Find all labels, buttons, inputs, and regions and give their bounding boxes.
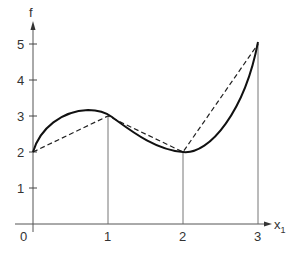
x-axis-label-sub: 1 bbox=[281, 225, 286, 235]
y-tick-label-1: 1 bbox=[17, 181, 24, 196]
y-axis-arrow-icon bbox=[31, 21, 36, 30]
x-tick-label-1: 1 bbox=[104, 229, 111, 244]
y-tick-label-5: 5 bbox=[17, 37, 24, 52]
x-axis-label: x1 bbox=[274, 217, 286, 235]
x-tick-label-3: 3 bbox=[254, 229, 261, 244]
x-tick-label-2: 2 bbox=[179, 229, 186, 244]
y-tick-label-3: 3 bbox=[17, 109, 24, 124]
smooth-function-curve bbox=[33, 42, 258, 152]
x-axis-arrow-icon bbox=[264, 222, 272, 227]
vertical-guides bbox=[108, 44, 258, 224]
y-tick-label-4: 4 bbox=[17, 73, 24, 88]
y-axis-label: f bbox=[29, 5, 33, 20]
y-tick-label-2: 2 bbox=[17, 145, 24, 160]
origin-label: 0 bbox=[20, 229, 27, 244]
chart: f x1 0 1 2 3 4 5 1 2 3 bbox=[0, 0, 300, 254]
dashed-interpolation-line bbox=[33, 44, 258, 152]
